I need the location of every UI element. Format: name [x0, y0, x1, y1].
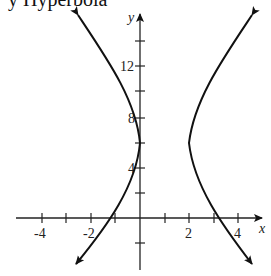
x-tick-label: 2 — [185, 226, 192, 241]
x-axis-label: x — [258, 221, 266, 236]
y-tick-label: 12 — [120, 59, 134, 74]
x-tick-label: 4 — [234, 226, 241, 241]
hyperbola-chart: -4 -2 2 4 4 8 12 x y — [0, 0, 271, 276]
x-tick-label: -4 — [34, 226, 46, 241]
hyperbola-right-branch — [189, 15, 252, 264]
x-tick-label: -2 — [83, 226, 95, 241]
y-axis-label: y — [126, 10, 135, 25]
